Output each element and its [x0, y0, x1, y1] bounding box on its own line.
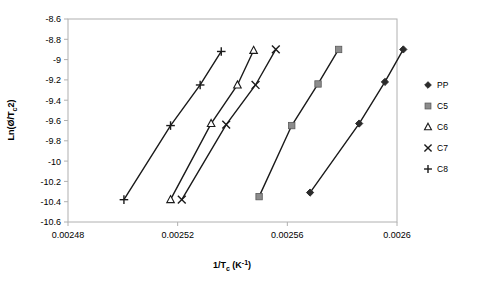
y-tick-label: -10.2 [40, 177, 61, 187]
chart-container: -8.6-8.8-9-9.2-9.4-9.6-9.8-10-10.2-10.4-… [0, 0, 499, 294]
y-tick-label: -8.8 [45, 35, 61, 45]
series-c5 [256, 46, 342, 200]
svg-text:Ln(Ø/Tc2): Ln(Ø/Tc2) [6, 100, 18, 141]
marker-c6 [167, 196, 175, 203]
y-axis-title: Ln(Ø/Tc2) [6, 100, 18, 141]
axis-tickmarks [64, 19, 397, 226]
y-tick-label: -9.4 [45, 96, 61, 106]
y-tick-label: -9.6 [45, 116, 61, 126]
series-pp [306, 46, 406, 196]
marker-pp [381, 78, 388, 85]
y-axis-title-post: 2) [6, 100, 16, 108]
x-axis-title: 1/Tc (K-1) [213, 259, 251, 272]
svg-text:1/Tc (K-1): 1/Tc (K-1) [213, 259, 251, 272]
y-axis-tick-labels: -8.6-8.8-9-9.2-9.4-9.6-9.8-10-10.2-10.4-… [40, 14, 61, 227]
x-axis-title-post: (K [230, 260, 242, 270]
y-tick-label: -9 [53, 55, 61, 65]
series-line-c5 [259, 49, 339, 196]
marker-c5 [315, 81, 321, 87]
marker-c5 [289, 122, 295, 128]
plot-area-border [68, 19, 397, 222]
x-tick-label: 0.00252 [161, 230, 194, 240]
data-series-group [120, 46, 407, 204]
legend-label-c5: C5 [437, 101, 448, 111]
scatter-plot: -8.6-8.8-9-9.2-9.4-9.6-9.8-10-10.2-10.4-… [0, 0, 499, 294]
marker-legend-c5 [425, 103, 431, 109]
y-tick-label: -8.6 [45, 14, 61, 24]
y-axis-title-pre: Ln(Ø/T [6, 111, 16, 140]
legend-label-c7: C7 [437, 143, 448, 153]
x-tick-label: 0.00256 [271, 230, 304, 240]
legend-item-c5[interactable]: C5 [425, 101, 448, 111]
legend-item-c7[interactable]: C7 [424, 143, 448, 153]
plot-frame [68, 19, 397, 222]
legend-label-pp: PP [437, 80, 449, 90]
legend-label-c8: C8 [437, 164, 448, 174]
marker-c6 [250, 46, 258, 53]
series-line-pp [310, 49, 403, 192]
marker-pp [400, 46, 407, 53]
marker-c6 [234, 81, 242, 88]
marker-c5 [256, 193, 262, 199]
legend-label-c6: C6 [437, 122, 448, 132]
legend-item-c6[interactable]: C6 [425, 122, 449, 132]
series-c7 [178, 46, 280, 204]
legend-item-c8[interactable]: C8 [424, 164, 448, 174]
series-c6 [167, 46, 258, 202]
marker-legend-c6 [425, 123, 432, 129]
x-axis-title-pre: 1/T [213, 260, 227, 270]
y-tick-label: -9.2 [45, 75, 61, 85]
y-tick-label: -10.6 [40, 217, 61, 227]
marker-legend-pp [425, 82, 432, 89]
marker-c5 [335, 46, 341, 52]
x-tick-label: 0.0026 [383, 230, 411, 240]
y-tick-label: -10 [48, 157, 61, 167]
x-axis-title-tail: ) [248, 260, 251, 270]
x-axis-tick-labels: 0.002480.002520.002560.0026 [52, 230, 411, 240]
y-tick-label: -9.8 [45, 136, 61, 146]
series-line-c7 [182, 49, 276, 199]
x-tick-label: 0.00248 [52, 230, 85, 240]
y-tick-label: -10.4 [40, 197, 61, 207]
legend: PPC5C6C7C8 [424, 80, 449, 174]
legend-item-pp[interactable]: PP [425, 80, 449, 90]
